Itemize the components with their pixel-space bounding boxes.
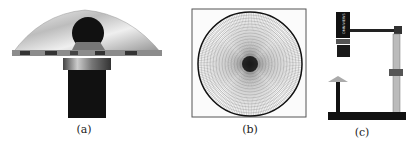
subfigure-c: OMNIVIEWS (c) xyxy=(320,0,411,148)
subfigure-b: (b) xyxy=(180,0,320,148)
subfigure-a: (a) xyxy=(0,0,170,148)
polar-calibration-pattern xyxy=(190,8,320,120)
stand-base xyxy=(328,112,406,120)
caption-c: (c) xyxy=(342,126,382,139)
caption-a: (a) xyxy=(64,123,104,136)
camera-label: OMNIVIEWS xyxy=(342,12,346,34)
mirror-illustration xyxy=(0,0,170,125)
caption-b: (b) xyxy=(230,123,270,136)
pattern-center xyxy=(242,56,258,72)
camera-lens xyxy=(337,45,350,57)
camera-rig-illustration: OMNIVIEWS xyxy=(320,0,411,125)
